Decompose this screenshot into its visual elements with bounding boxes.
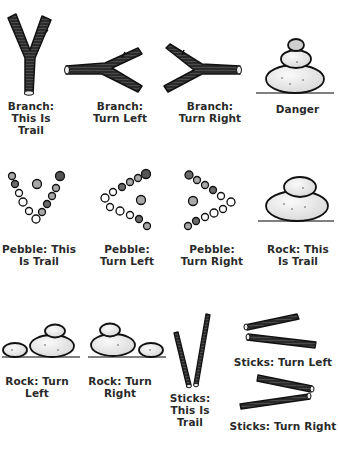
sign-label: Sticks: Turn Right <box>228 420 338 432</box>
sticks-right-icon <box>0 0 338 420</box>
